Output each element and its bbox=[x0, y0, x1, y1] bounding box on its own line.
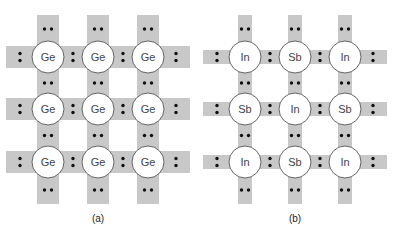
atom-symbol: In bbox=[290, 103, 299, 115]
panel-b-indium-antimonide-lattice: InSbInSbInSbInSbIn bbox=[203, 15, 387, 204]
atom-symbol: In bbox=[240, 51, 249, 63]
atom-in: In bbox=[329, 41, 361, 73]
atom-symbol: Ge bbox=[141, 51, 156, 63]
atom-ge: Ge bbox=[32, 146, 64, 178]
atom-ge: Ge bbox=[132, 41, 164, 73]
atom-symbol: Ge bbox=[141, 156, 156, 168]
atom-symbol: Sb bbox=[238, 103, 251, 115]
panel-a-germanium-lattice: GeGeGeGeGeGeGeGeGe bbox=[6, 15, 190, 204]
atom-ge: Ge bbox=[132, 146, 164, 178]
atom-symbol: In bbox=[240, 156, 249, 168]
atom-symbol: Ge bbox=[41, 156, 56, 168]
atom-in: In bbox=[229, 41, 261, 73]
atom-symbol: Ge bbox=[91, 156, 106, 168]
atom-sb: Sb bbox=[279, 41, 311, 73]
atom-ge: Ge bbox=[132, 93, 164, 125]
atom-ge: Ge bbox=[82, 41, 114, 73]
atom-in: In bbox=[229, 146, 261, 178]
atom-symbol: In bbox=[340, 51, 349, 63]
panel-b-label: (b) bbox=[289, 213, 301, 224]
atom-in: In bbox=[279, 93, 311, 125]
atom-symbol: Sb bbox=[288, 156, 301, 168]
atom-symbol: Ge bbox=[41, 103, 56, 115]
crystal-lattice-diagram: GeGeGeGeGeGeGeGeGe InSbInSbInSbInSbIn (a… bbox=[0, 0, 402, 234]
atom-symbol: Sb bbox=[338, 103, 351, 115]
atom-sb: Sb bbox=[279, 146, 311, 178]
atom-symbol: Ge bbox=[41, 51, 56, 63]
atom-ge: Ge bbox=[82, 146, 114, 178]
atom-symbol: Sb bbox=[288, 51, 301, 63]
atom-sb: Sb bbox=[329, 93, 361, 125]
atom-ge: Ge bbox=[32, 41, 64, 73]
atom-ge: Ge bbox=[82, 93, 114, 125]
atom-symbol: In bbox=[340, 156, 349, 168]
atom-in: In bbox=[329, 146, 361, 178]
atom-symbol: Ge bbox=[91, 51, 106, 63]
atom-symbol: Ge bbox=[141, 103, 156, 115]
atom-ge: Ge bbox=[32, 93, 64, 125]
atom-sb: Sb bbox=[229, 93, 261, 125]
panel-a-label: (a) bbox=[92, 213, 104, 224]
atom-symbol: Ge bbox=[91, 103, 106, 115]
